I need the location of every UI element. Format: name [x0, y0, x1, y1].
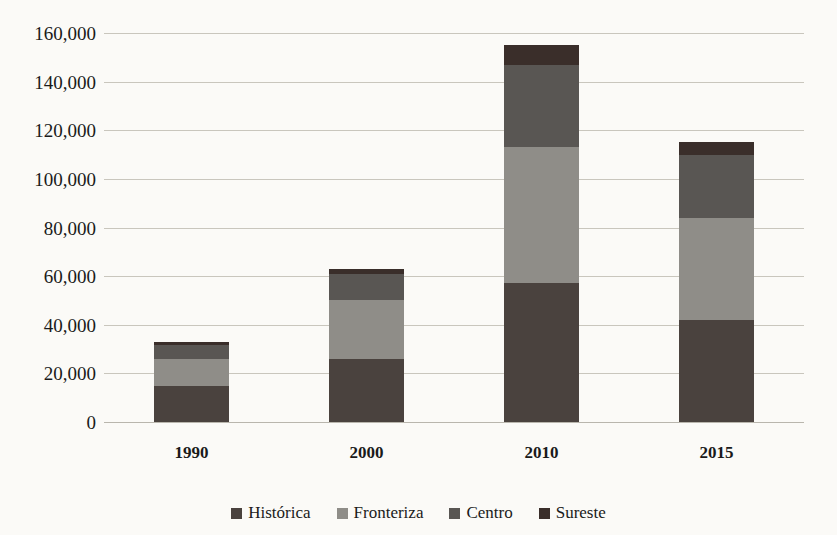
plot-area — [104, 33, 804, 422]
y-axis-tick-label: 140,000 — [34, 72, 96, 91]
bar-group — [504, 45, 579, 422]
bar-group — [154, 342, 229, 422]
x-axis-labels: 1990200020102015 — [104, 443, 804, 469]
legend-item[interactable]: Centro — [449, 503, 512, 523]
legend-label: Fronteriza — [354, 503, 424, 523]
x-axis-tick-label: 1990 — [175, 443, 209, 463]
legend-swatch-icon — [539, 508, 550, 519]
legend-label: Sureste — [556, 503, 606, 523]
bar-segment — [679, 142, 754, 154]
legend-label: Histórica — [248, 503, 310, 523]
y-axis-labels: 160,000140,000120,000100,00080,00060,000… — [0, 33, 96, 422]
legend-swatch-icon — [449, 508, 460, 519]
legend-swatch-icon — [231, 508, 242, 519]
y-axis-tick-label: 0 — [87, 413, 97, 432]
y-axis-tick-label: 100,000 — [34, 169, 96, 188]
bar-segment — [329, 300, 404, 358]
bar-segment — [679, 320, 754, 422]
y-axis-tick-label: 120,000 — [34, 121, 96, 140]
chart-title — [0, 0, 837, 10]
legend-item[interactable]: Fronteriza — [337, 503, 424, 523]
y-axis-tick-label: 40,000 — [44, 315, 96, 334]
y-axis-tick-label: 160,000 — [34, 24, 96, 43]
legend-label: Centro — [466, 503, 512, 523]
legend-item[interactable]: Sureste — [539, 503, 606, 523]
bar-segment — [504, 45, 579, 64]
bar-segment — [154, 386, 229, 422]
x-axis-tick-label: 2000 — [350, 443, 384, 463]
legend-swatch-icon — [337, 508, 348, 519]
bar-segment — [504, 147, 579, 283]
bar-segment — [329, 359, 404, 422]
bar-series-container — [104, 33, 804, 422]
legend-item[interactable]: Histórica — [231, 503, 310, 523]
y-axis-tick-label: 20,000 — [44, 364, 96, 383]
bar-segment — [504, 283, 579, 422]
stacked-bar-chart: 160,000140,000120,000100,00080,00060,000… — [0, 0, 837, 535]
bar-segment — [154, 359, 229, 386]
bar-group — [679, 142, 754, 422]
y-axis-tick-label: 80,000 — [44, 218, 96, 237]
bar-segment — [504, 65, 579, 148]
bar-segment — [679, 155, 754, 218]
y-axis-tick-label: 60,000 — [44, 267, 96, 286]
chart-legend: HistóricaFronterizaCentroSureste — [0, 503, 837, 523]
bar-segment — [329, 274, 404, 301]
x-axis-tick-label: 2010 — [525, 443, 559, 463]
bar-segment — [679, 218, 754, 320]
bar-segment — [154, 345, 229, 358]
gridline — [104, 422, 804, 423]
bar-group — [329, 269, 404, 422]
x-axis-tick-label: 2015 — [700, 443, 734, 463]
